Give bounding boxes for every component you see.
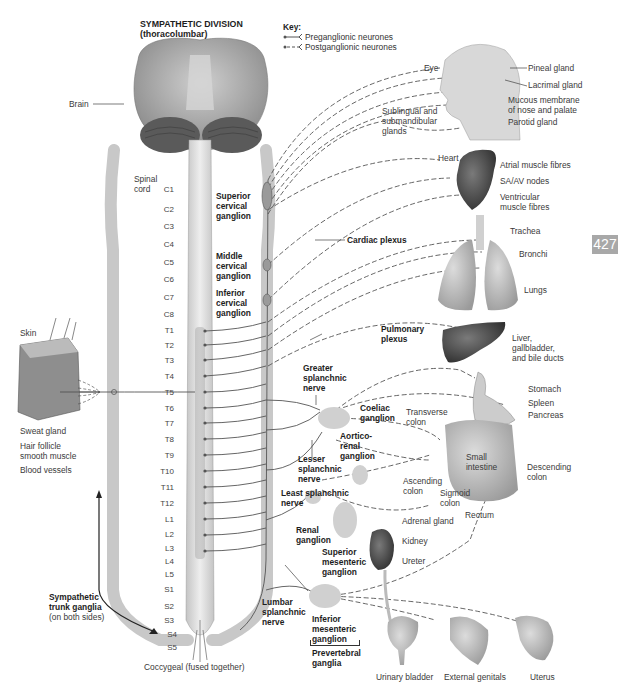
segment-label: T4	[152, 372, 174, 381]
label-lesser-splanchnic-nerve: Lesser splanchnic nerve	[298, 454, 342, 484]
label-lumbar-splanchnic-nerve: Lumbar splanchnic nerve	[262, 597, 306, 627]
right-sympathetic-trunk	[212, 150, 269, 640]
label-cardiac-plexus: Cardiac plexus	[347, 235, 407, 245]
segment-label: C7	[152, 293, 174, 302]
label-prevertebral-ganglia: Prevertebral ganglia	[312, 648, 361, 668]
label-parotid-gland: Parotid gland	[508, 117, 557, 127]
legend-item-preganglionic: Preganglionic neurones	[283, 32, 397, 42]
label-coccygeal: Coccygeal (fused together)	[144, 662, 245, 672]
title-line2: (thoracolumbar)	[140, 29, 243, 39]
label-inferior-cervical-ganglion: Inferior cervical ganglion	[216, 288, 251, 318]
label-descending-colon: Descending colon	[527, 462, 571, 482]
label-superior-mesenteric-ganglion: Superior mesenteric ganglion	[322, 547, 366, 577]
label-brain: Brain	[69, 99, 89, 109]
label-pineal-gland: Pineal gland	[528, 63, 574, 73]
solid-fibre-icon	[283, 34, 303, 40]
segment-label: C4	[152, 240, 174, 249]
label-hair-follicle: Hair follicle smooth muscle	[20, 441, 76, 461]
segment-label: L5	[152, 570, 174, 579]
dashed-fibre-icon	[283, 44, 303, 50]
legend: Key: Preganglionic neurones Postganglion…	[283, 22, 397, 52]
legend-heading: Key:	[283, 22, 397, 32]
label-heart: Heart	[438, 153, 458, 163]
segment-label: L4	[152, 557, 174, 566]
segment-label: C6	[152, 275, 174, 284]
brain-illustration	[134, 38, 268, 153]
diagram-title: SYMPATHETIC DIVISION (thoracolumbar)	[140, 19, 243, 39]
label-trachea: Trachea	[510, 226, 540, 236]
label-uterus: Uterus	[530, 672, 555, 682]
segment-label: L1	[152, 515, 174, 524]
label-sweat-gland: Sweat gland	[20, 426, 66, 436]
label-trunk-ganglia: Sympathetic trunk ganglia	[49, 592, 102, 612]
segment-label: T3	[152, 356, 174, 365]
label-bronchi: Bronchi	[519, 249, 547, 259]
label-small-intestine: Small intestine	[466, 452, 497, 472]
label-sublingual-glands: Sublingual and submandibular glands	[382, 106, 437, 136]
heart-illustration	[457, 150, 496, 210]
label-trunk-ganglia-note: (on both sides)	[49, 612, 104, 622]
label-sa-av-nodes: SA/AV nodes	[500, 176, 549, 186]
label-spleen: Spleen	[528, 398, 554, 408]
label-ureter: Ureter	[402, 556, 425, 566]
label-transverse-colon: Transverse colon	[406, 407, 448, 427]
segment-label: T10	[152, 467, 174, 476]
label-middle-cervical-ganglion: Middle cervical ganglion	[216, 251, 251, 281]
label-superior-cervical-ganglion: Superior cervical ganglion	[216, 191, 251, 221]
label-skin: Skin	[20, 328, 36, 338]
label-sigmoid-colon: Sigmoid colon	[440, 488, 470, 508]
segment-label: T9	[152, 451, 174, 460]
label-pulmonary-plexus: Pulmonary plexus	[381, 324, 424, 344]
segment-label: T1	[152, 326, 174, 335]
label-adrenal-gland: Adrenal gland	[402, 516, 454, 526]
label-greater-splanchnic-nerve: Greater splanchnic nerve	[303, 363, 347, 393]
legend-label: Preganglionic neurones	[305, 32, 393, 42]
spinal-cord-illustration	[186, 140, 214, 662]
title-line1: SYMPATHETIC DIVISION	[140, 19, 243, 29]
segment-label: T8	[152, 435, 174, 444]
label-mucous-membrane: Mucous membrane of nose and palate	[508, 95, 580, 115]
segment-label: T5	[152, 388, 174, 397]
segment-label: L3	[152, 544, 174, 553]
liver-illustration	[442, 322, 505, 363]
segment-label: C8	[152, 310, 174, 319]
label-external-genitals: External genitals	[444, 672, 506, 682]
segment-label: T6	[152, 404, 174, 413]
label-lungs: Lungs	[524, 285, 547, 295]
label-coeliac-ganglion: Coeliac ganglion	[360, 403, 395, 423]
segment-label: S5	[155, 643, 177, 652]
segment-label: L2	[152, 530, 174, 539]
segment-label: T2	[152, 341, 174, 350]
segment-label: C5	[152, 258, 174, 267]
label-ventricular-muscle-fibres: Ventricular muscle fibres	[500, 192, 549, 212]
segment-label: T12	[152, 499, 174, 508]
segment-label: T7	[152, 419, 174, 428]
label-aorticorenal-ganglion: Aortico- renal ganglion	[340, 431, 375, 461]
label-spinal-cord: Spinal cord	[134, 174, 157, 194]
segment-label: S4	[155, 630, 177, 639]
digestive-illustration	[445, 372, 518, 501]
pelvic-organs-illustration	[387, 616, 553, 665]
label-pancreas: Pancreas	[528, 410, 563, 420]
segment-label: S1	[152, 585, 174, 594]
label-lacrimal-gland: Lacrimal gland	[528, 80, 582, 90]
label-kidney: Kidney	[402, 536, 428, 546]
lungs-illustration	[438, 215, 518, 310]
label-renal-ganglion: Renal ganglion	[296, 525, 331, 545]
page-number-badge: 427	[592, 235, 618, 254]
label-least-splanchnic-nerve: Least splanchnic nerve	[281, 488, 349, 508]
label-rectum: Rectum	[465, 510, 494, 520]
segment-label: T11	[152, 483, 174, 492]
label-eye: Eye	[424, 63, 438, 73]
legend-item-postganglionic: Postganglionic neurones	[283, 42, 397, 52]
label-atrial-muscle-fibres: Atrial muscle fibres	[500, 160, 571, 170]
segment-label: C2	[152, 205, 174, 214]
segment-label: S2	[152, 602, 174, 611]
label-ascending-colon: Ascending colon	[403, 476, 442, 496]
left-sympathetic-trunk	[111, 150, 188, 640]
label-blood-vessels: Blood vessels	[20, 465, 72, 475]
label-stomach: Stomach	[528, 384, 561, 394]
label-urinary-bladder: Urinary bladder	[376, 672, 433, 682]
label-liver: Liver, gallbladder, and bile ducts	[512, 333, 564, 363]
prevertebral-bracket	[310, 640, 360, 646]
